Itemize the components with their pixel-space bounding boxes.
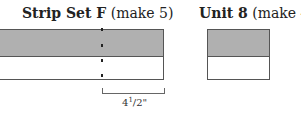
strip-gray-band: [0, 30, 163, 57]
unit-name: Unit 8: [199, 5, 248, 21]
measurement-bracket: [102, 88, 165, 94]
strip-set-title: Strip Set F (make 5): [22, 5, 173, 21]
cut-line-dash: [101, 44, 103, 47]
unit-title: Unit 8 (make 40): [199, 5, 301, 21]
cut-line-dash: [101, 28, 103, 31]
measurement-label: 41/2": [122, 96, 147, 108]
unit-diagram: [207, 29, 270, 80]
strip-set-name: Strip Set F: [22, 5, 106, 21]
strip-set-diagram: [0, 29, 164, 80]
strip-set-count: (make 5): [106, 5, 173, 21]
unit-count: (make 40): [248, 5, 301, 21]
cut-line-dash: [101, 74, 103, 77]
unit-gray-band: [208, 30, 269, 57]
cut-line-dash: [101, 59, 103, 62]
